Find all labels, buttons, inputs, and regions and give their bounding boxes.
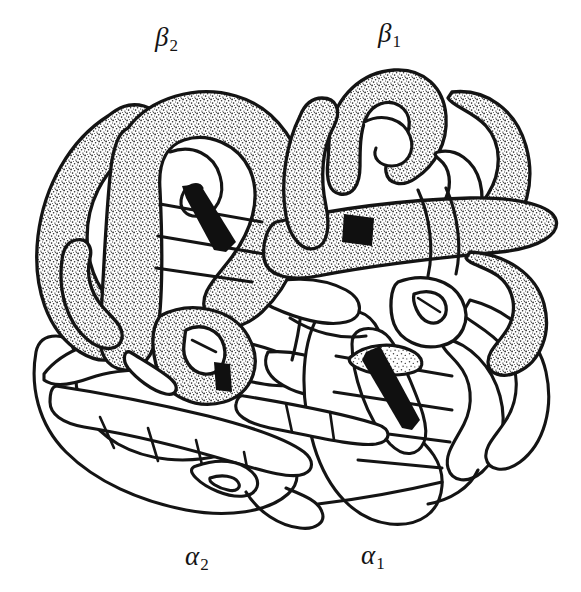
beta-glyph: β: [378, 18, 391, 48]
alpha-glyph: α: [361, 540, 375, 570]
alpha-2-subscript: 2: [199, 555, 209, 574]
alpha-glyph: α: [185, 541, 199, 571]
label-alpha-2: α2: [185, 543, 209, 573]
hemoglobin-structure-drawing: [0, 0, 581, 592]
label-beta-2: β2: [155, 24, 178, 54]
heme-beta1: [342, 214, 374, 246]
label-alpha-1: α1: [361, 542, 385, 572]
alpha-1-subscript: 1: [375, 554, 385, 573]
beta-1-subscript: 1: [391, 32, 401, 51]
label-beta-1: β1: [378, 20, 401, 50]
beta-2-subscript: 2: [168, 36, 178, 55]
heme-alpha2: [214, 362, 232, 392]
beta-glyph: β: [155, 22, 168, 52]
hemoglobin-figure: β2 β1 α2 α1: [0, 0, 581, 592]
